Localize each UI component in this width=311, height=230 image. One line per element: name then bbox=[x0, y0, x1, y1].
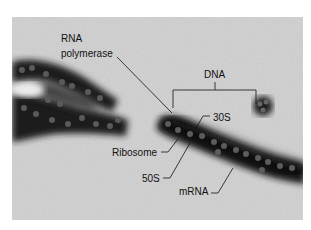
label-polymerase: polymerase bbox=[61, 48, 113, 59]
label-mrna: mRNA bbox=[179, 186, 209, 197]
label-ribosome: Ribosome bbox=[112, 147, 157, 158]
micrograph-figure: RNA polymerase DNA 30S Ribosome 50S mRNA bbox=[0, 0, 311, 230]
label-rna: RNA bbox=[61, 33, 82, 44]
label-30s: 30S bbox=[213, 112, 231, 123]
micrograph-image bbox=[12, 17, 305, 220]
label-dna: DNA bbox=[204, 69, 225, 80]
label-50s: 50S bbox=[142, 173, 160, 184]
